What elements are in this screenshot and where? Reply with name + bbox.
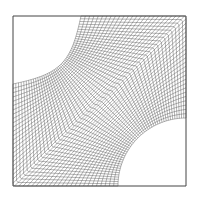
figure-caption [4, 188, 199, 197]
mesh-grid [13, 16, 186, 186]
mesh-figure [0, 0, 199, 197]
